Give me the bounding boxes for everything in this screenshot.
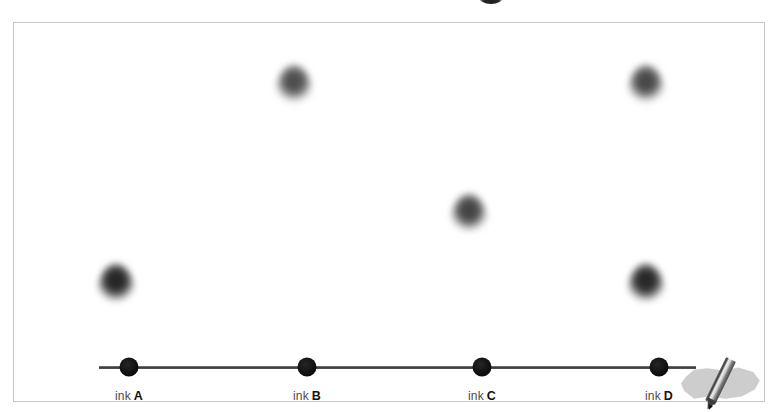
spot-ink-d-1 bbox=[626, 64, 666, 122]
lane-label-ink-a: inkA bbox=[115, 389, 143, 403]
origin-dot-ink-a bbox=[120, 358, 139, 377]
pencil-icon bbox=[679, 358, 771, 412]
lane-label-ink-d: inkD bbox=[645, 389, 673, 403]
lane-label-ink-c: inkC bbox=[468, 389, 496, 403]
lane-label-prefix-c: ink bbox=[468, 389, 484, 403]
lane-label-ink-b: inkB bbox=[293, 389, 321, 403]
lane-label-letter-c: C bbox=[487, 389, 496, 403]
origin-dot-ink-d bbox=[650, 358, 669, 377]
spot-ink-d-2 bbox=[626, 263, 666, 321]
lane-label-letter-b: B bbox=[312, 389, 321, 403]
clipped-top-mark bbox=[479, 0, 503, 4]
lane-label-letter-a: A bbox=[134, 389, 143, 403]
figure-canvas: inkA inkB inkC inkD bbox=[0, 0, 781, 412]
lane-label-letter-d: D bbox=[664, 389, 673, 403]
origin-dot-ink-c bbox=[473, 358, 492, 377]
lane-label-prefix-b: ink bbox=[293, 389, 309, 403]
pencil-baseline bbox=[99, 366, 696, 369]
spot-ink-a-1 bbox=[96, 263, 136, 321]
lane-label-prefix-a: ink bbox=[115, 389, 131, 403]
spot-ink-c-1 bbox=[449, 193, 489, 251]
origin-dot-ink-b bbox=[298, 358, 317, 377]
chromatography-chamber: inkA inkB inkC inkD bbox=[13, 22, 765, 402]
spot-ink-b-1 bbox=[274, 64, 314, 122]
lane-label-prefix-d: ink bbox=[645, 389, 661, 403]
